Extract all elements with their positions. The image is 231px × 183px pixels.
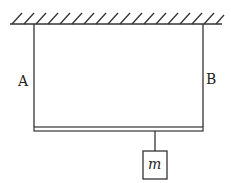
label-a: A [18, 73, 28, 89]
label-b: B [206, 71, 216, 87]
pulley-diagram [0, 0, 231, 183]
ceiling [10, 13, 224, 24]
label-mass: m [148, 156, 161, 172]
horizontal-bar [34, 127, 203, 131]
ceiling-hatching [12, 13, 224, 24]
